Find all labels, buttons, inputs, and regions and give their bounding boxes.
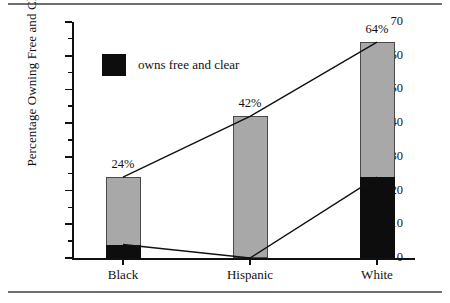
x-axis-label-black: Black (73, 267, 173, 283)
x-axis-label-hispanic: Hispanic (200, 267, 300, 283)
top-divider-rule (8, 3, 442, 5)
y-tick-major (65, 257, 72, 259)
bottom-divider-rule (8, 291, 442, 293)
y-tick-major (65, 89, 72, 91)
x-axis-label-white: White (327, 267, 427, 283)
legend-label-owns-free-and-clear: owns free and clear (138, 57, 239, 73)
y-tick-major (65, 223, 72, 225)
legend: owns free and clear (102, 54, 239, 76)
y-tick-major (65, 21, 72, 23)
y-tick-major (65, 190, 72, 192)
legend-swatch-owns-free-and-clear (102, 54, 126, 76)
y-tick-major (65, 122, 72, 124)
x-tick-white (376, 259, 378, 265)
y-tick-major (65, 55, 72, 57)
y-tick-major (65, 156, 72, 158)
free-and-clear-connector-line (123, 177, 377, 258)
x-tick-black (122, 259, 124, 265)
x-tick-hispanic (249, 259, 251, 265)
y-axis-title: Percentage Owning Free and Clear (24, 0, 40, 184)
figure: Percentage Owning Free and Clear 0102030… (0, 0, 450, 303)
